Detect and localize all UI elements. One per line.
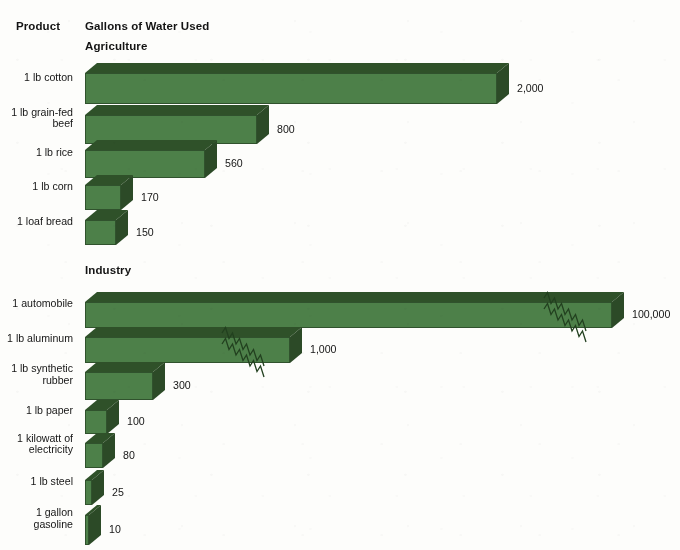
bar-front-face (85, 515, 89, 545)
bar-rubber (85, 362, 165, 400)
value-label-cotton: 2,000 (517, 83, 544, 94)
water-usage-bar-chart: Product Gallons of Water Used Agricultur… (0, 0, 680, 550)
value-label-paper: 100 (127, 416, 145, 427)
bar-top-face (85, 105, 269, 115)
row-label-rice: 1 lb rice (0, 147, 73, 159)
value-label-bread: 150 (136, 227, 154, 238)
row-label-gasoline: 1 gallon gasoline (0, 507, 73, 530)
row-label-steel: 1 lb steel (0, 476, 73, 488)
value-label-beef: 800 (277, 124, 295, 135)
bar-front-face (85, 302, 612, 328)
value-label-automobile: 100,000 (632, 309, 670, 320)
value-label-corn: 170 (141, 192, 159, 203)
row-label-automobile: 1 automobile (0, 298, 73, 310)
axis-break-zigzag (542, 302, 602, 316)
bar-steel (85, 470, 104, 505)
bar-paper (85, 400, 119, 434)
bar-front-face (85, 220, 116, 245)
value-label-steel: 25 (112, 487, 124, 498)
row-label-paper: 1 lb paper (0, 405, 73, 417)
bar-front-face (85, 185, 121, 210)
bar-front-face (85, 410, 107, 434)
column-header-gallons: Gallons of Water Used (85, 20, 209, 32)
row-label-electricity: 1 kilowatt of electricity (0, 433, 73, 456)
value-label-rice: 560 (225, 158, 243, 169)
bar-top-face (85, 362, 165, 372)
bar-gasoline (85, 505, 101, 545)
row-label-corn: 1 lb corn (0, 181, 73, 193)
bar-corn (85, 175, 133, 210)
bar-beef (85, 105, 269, 144)
section-title-agriculture: Agriculture (85, 40, 147, 52)
section-title-industry: Industry (85, 264, 131, 276)
bar-bread (85, 210, 128, 245)
row-label-bread: 1 loaf bread (0, 216, 73, 228)
axis-break-zigzag (220, 337, 280, 351)
value-label-rubber: 300 (173, 380, 191, 391)
bar-cotton (85, 63, 509, 104)
bar-top-face (85, 140, 217, 150)
row-label-aluminum: 1 lb aluminum (0, 333, 73, 345)
row-label-rubber: 1 lb synthetic rubber (0, 363, 73, 386)
bar-front-face (85, 480, 92, 505)
bar-front-face (85, 150, 205, 178)
bar-aluminum (85, 327, 302, 363)
value-label-electricity: 80 (123, 450, 135, 461)
bar-electricity (85, 433, 115, 468)
column-header-product: Product (16, 20, 60, 32)
row-label-beef: 1 lb grain-fed beef (0, 107, 73, 130)
bar-rice (85, 140, 217, 178)
bar-front-face (85, 73, 497, 104)
bar-front-face (85, 443, 103, 468)
value-label-aluminum: 1,000 (310, 344, 337, 355)
bar-automobile (85, 292, 624, 328)
bar-top-face (85, 63, 509, 73)
bar-front-face (85, 372, 153, 400)
row-label-cotton: 1 lb cotton (0, 72, 73, 84)
value-label-gasoline: 10 (109, 524, 121, 535)
